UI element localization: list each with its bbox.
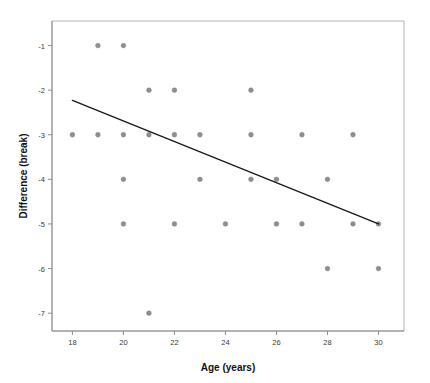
y-tick-label: -6 <box>38 265 45 274</box>
data-point <box>325 266 330 271</box>
data-point <box>121 43 126 48</box>
data-point <box>96 43 101 48</box>
x-tick-label: 18 <box>68 338 76 347</box>
y-tick-label: -4 <box>38 175 45 184</box>
data-point <box>274 177 279 182</box>
data-point <box>121 132 126 137</box>
data-point <box>70 132 75 137</box>
data-point <box>121 177 126 182</box>
data-point <box>300 132 305 137</box>
data-point <box>249 88 254 93</box>
x-tick-label: 26 <box>272 338 280 347</box>
data-point <box>147 88 152 93</box>
y-tick-label: -1 <box>38 42 45 51</box>
data-point <box>249 132 254 137</box>
data-point <box>376 266 381 271</box>
data-point <box>172 132 177 137</box>
x-tick-label: 24 <box>221 338 229 347</box>
data-point <box>351 132 356 137</box>
y-tick-label: -5 <box>38 220 45 229</box>
y-tick-label: -7 <box>38 309 45 318</box>
x-tick-label: 28 <box>323 338 331 347</box>
data-point <box>351 222 356 227</box>
data-point <box>96 132 101 137</box>
scatter-plot-figure: 18202224262830 -1-2-3-4-5-6-7 Age (years… <box>0 0 430 383</box>
x-tick-label: 22 <box>170 338 178 347</box>
data-point <box>274 222 279 227</box>
data-point <box>198 177 203 182</box>
data-point <box>147 132 152 137</box>
data-point <box>249 177 254 182</box>
y-tick-label: -2 <box>38 86 45 95</box>
data-point <box>325 177 330 182</box>
data-point <box>172 88 177 93</box>
data-point <box>147 311 152 316</box>
y-axis-title: Difference (break) <box>18 133 29 218</box>
data-point <box>172 222 177 227</box>
data-point <box>121 222 126 227</box>
data-point <box>223 222 228 227</box>
plot-canvas: 18202224262830 -1-2-3-4-5-6-7 Age (years… <box>0 0 430 383</box>
data-point <box>300 222 305 227</box>
x-tick-label: 30 <box>374 338 382 347</box>
y-tick-label: -3 <box>38 131 45 140</box>
x-axis-title: Age (years) <box>201 362 255 373</box>
figure-background <box>0 0 430 383</box>
data-point <box>198 132 203 137</box>
x-tick-label: 20 <box>119 338 127 347</box>
